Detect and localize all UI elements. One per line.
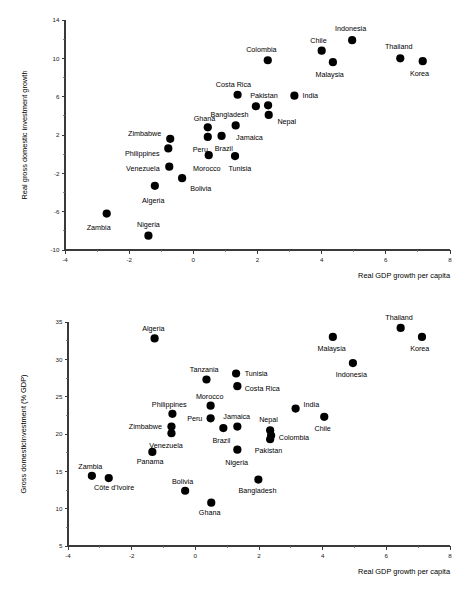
data-point xyxy=(329,333,337,341)
data-point xyxy=(232,121,240,129)
point-label: Zimbabwe xyxy=(129,422,162,431)
data-point xyxy=(165,163,173,171)
data-point xyxy=(348,36,356,44)
point-label: Chile xyxy=(314,424,330,433)
data-point xyxy=(233,446,241,454)
y-tick-label: 25 xyxy=(56,393,63,400)
data-point xyxy=(233,382,241,390)
data-point xyxy=(148,448,156,456)
x-axis-title: Real GDP growth per capita xyxy=(358,567,451,576)
point-label: Zimbabwe xyxy=(128,129,161,138)
data-point xyxy=(207,499,215,507)
point-label: Thailand xyxy=(385,313,413,322)
point-label: Algeria xyxy=(142,324,164,333)
data-point xyxy=(231,152,239,160)
bottom-scatter-panel: 5101520253035-4-202468Real GDP growth pe… xyxy=(0,302,466,604)
y-tick-label: 35 xyxy=(56,318,63,325)
data-point xyxy=(88,472,96,480)
x-tick-label: 6 xyxy=(385,552,389,559)
x-tick-label: 4 xyxy=(321,552,325,559)
x-tick-label: 6 xyxy=(384,256,388,263)
data-point xyxy=(349,359,357,367)
axis-spines xyxy=(68,322,450,546)
data-point xyxy=(252,102,260,110)
data-point xyxy=(318,47,326,55)
data-point xyxy=(151,182,159,190)
data-point xyxy=(329,58,337,66)
data-point xyxy=(105,474,113,482)
point-label: Bangladesh xyxy=(238,486,276,495)
bottom-scatter-chart: 5101520253035-4-202468Real GDP growth pe… xyxy=(0,302,466,604)
x-tick-label: -4 xyxy=(62,256,68,263)
point-label: Brazil xyxy=(215,144,233,153)
point-label: Venezuela xyxy=(126,164,160,173)
data-point xyxy=(164,144,172,152)
point-label: Korea xyxy=(410,69,429,78)
point-label: Korea xyxy=(410,344,429,353)
top-scatter-panel: -10-6-2261014-4-202468Real GDP growth pe… xyxy=(0,0,466,302)
point-label: Peru xyxy=(187,414,202,423)
data-point xyxy=(264,101,272,109)
data-point xyxy=(419,57,427,65)
data-point xyxy=(396,54,404,62)
data-point xyxy=(167,429,175,437)
point-label: Pakistan xyxy=(255,446,283,455)
data-point xyxy=(266,435,274,443)
data-point xyxy=(232,369,240,377)
y-tick-label: 30 xyxy=(56,356,63,363)
data-point xyxy=(204,133,212,141)
point-label: Philippines xyxy=(125,149,160,158)
point-label: Colombia xyxy=(246,45,276,54)
data-point xyxy=(234,91,242,99)
x-tick-label: 4 xyxy=(320,256,324,263)
y-axis-title: Gross domesticInvestment (% GDP) xyxy=(19,374,28,493)
data-point xyxy=(292,405,300,413)
y-tick-label: -2 xyxy=(54,170,60,177)
point-label: Brazil xyxy=(212,436,230,445)
y-tick-label: -10 xyxy=(51,246,61,253)
data-point xyxy=(168,410,176,418)
y-tick-label: 15 xyxy=(56,468,63,475)
point-label: Nigeria xyxy=(137,220,160,229)
top-scatter-chart: -10-6-2261014-4-202468Real GDP growth pe… xyxy=(0,0,466,302)
x-tick-label: 2 xyxy=(257,552,261,559)
x-tick-label: -4 xyxy=(65,552,71,559)
data-point xyxy=(207,402,215,410)
point-label: Ghana xyxy=(199,508,221,517)
x-axis-title: Real GDP growth per capita xyxy=(358,271,451,280)
data-point xyxy=(181,487,189,495)
point-label: Pakistan xyxy=(250,91,278,100)
point-label: Zambia xyxy=(78,462,102,471)
point-label: Indonesia xyxy=(336,370,367,379)
point-label: Philippines xyxy=(152,400,187,409)
data-point xyxy=(103,209,111,217)
data-point xyxy=(254,475,262,483)
y-axis-title: Real gross domestic investment growth xyxy=(20,71,29,200)
point-label: Malaysia xyxy=(316,70,344,79)
point-label: Côte d'Ivoire xyxy=(94,483,134,492)
data-point xyxy=(205,151,213,159)
data-point xyxy=(397,324,405,332)
point-label: Zambia xyxy=(87,223,111,232)
point-label: Costa Rica xyxy=(245,384,280,393)
point-label: Tunisia xyxy=(245,369,268,378)
point-label: Chile xyxy=(310,36,326,45)
data-point xyxy=(144,232,152,240)
y-tick-label: 2 xyxy=(56,131,60,138)
y-tick-label: 14 xyxy=(53,16,60,23)
point-label: Panama xyxy=(137,457,164,466)
data-point xyxy=(219,424,227,432)
point-label: India xyxy=(304,400,320,409)
point-label: Malaysia xyxy=(317,344,345,353)
point-label: Bolivia xyxy=(190,184,211,193)
point-label: Morocco xyxy=(193,164,221,173)
data-point xyxy=(265,111,273,119)
data-point xyxy=(418,333,426,341)
point-label: Bangladesh xyxy=(211,110,249,119)
point-label: Indonesia xyxy=(335,24,366,33)
data-point xyxy=(207,414,215,422)
point-label: Jamaica xyxy=(236,133,263,142)
data-point xyxy=(204,123,212,131)
point-label: Algeria xyxy=(142,196,164,205)
point-label: Costa Rica xyxy=(216,80,251,89)
